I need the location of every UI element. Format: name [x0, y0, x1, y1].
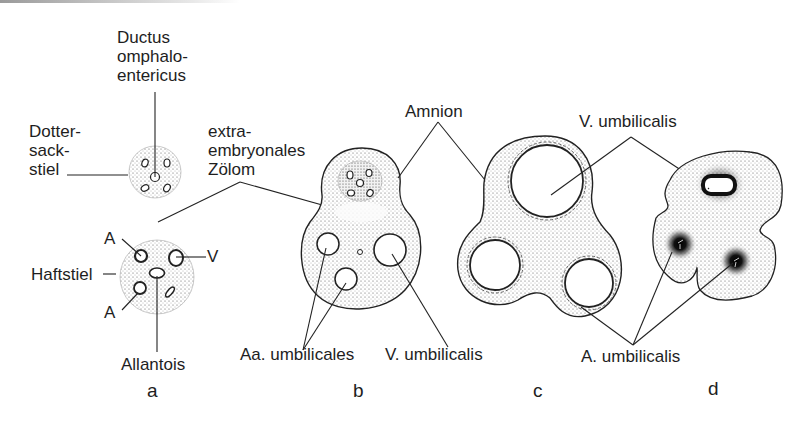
label-haftstiel: Haftstiel — [31, 265, 92, 284]
label-v-umbilicalis-top: V. umbilicalis — [579, 112, 677, 131]
label-v-umbilicalis-b: V. umbilicalis — [385, 345, 483, 364]
label-ductus-omphaloentericus: Ductus omphalo- entericus — [117, 28, 188, 85]
label-dottersackstiel: Dotter- sack- stiel — [29, 122, 81, 179]
panel-label-c: c — [533, 380, 543, 402]
label-arteria-upper: A — [104, 229, 115, 248]
section-b — [301, 148, 448, 350]
panel-label-b: b — [353, 380, 364, 402]
yolk-stalk-section — [67, 92, 181, 198]
panel-label-a: a — [147, 380, 158, 402]
label-arteria-lower: A — [104, 303, 115, 322]
label-allantois: Allantois — [121, 355, 185, 374]
panel-label-d: d — [708, 378, 719, 400]
label-aa-umbilicales: Aa. umbilicales — [240, 345, 354, 364]
label-vena: V — [207, 247, 218, 266]
label-a-umbilicalis: A. umbilicalis — [581, 347, 680, 366]
label-extraembryonales-zoelom: extra- embryonales Zölom — [208, 122, 305, 179]
connecting-stalk-section — [103, 239, 206, 352]
label-amnion: Amnion — [405, 102, 463, 121]
